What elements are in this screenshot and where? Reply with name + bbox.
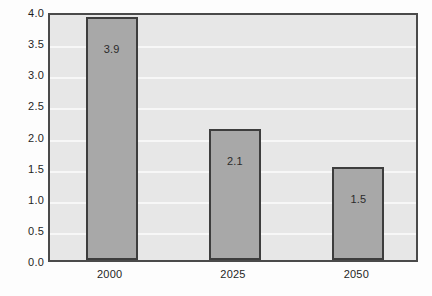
x-axis: 200020252050 bbox=[48, 268, 418, 288]
bar-value-label: 2.1 bbox=[211, 155, 259, 167]
y-tick-label: 0.5 bbox=[0, 225, 44, 237]
bar: 2.1 bbox=[209, 129, 261, 260]
y-tick-label: 3.5 bbox=[0, 38, 44, 50]
y-tick-label: 2.0 bbox=[0, 132, 44, 144]
bar: 1.5 bbox=[332, 167, 384, 260]
plot-area: 3.92.11.5 bbox=[48, 13, 418, 262]
x-tick-label: 2050 bbox=[344, 268, 369, 280]
y-tick-label: 3.0 bbox=[0, 69, 44, 81]
y-tick-label: 1.0 bbox=[0, 194, 44, 206]
y-axis: 4.03.53.02.52.01.51.00.50.0 bbox=[0, 13, 44, 262]
x-tick-label: 2025 bbox=[220, 268, 245, 280]
y-tick-label: 4.0 bbox=[0, 7, 44, 19]
bars-layer: 3.92.11.5 bbox=[50, 15, 416, 260]
bar-chart: 4.03.53.02.52.01.51.00.50.0 3.92.11.5 20… bbox=[0, 0, 432, 296]
bar-value-label: 1.5 bbox=[334, 193, 382, 205]
y-tick-label: 1.5 bbox=[0, 163, 44, 175]
bar-value-label: 3.9 bbox=[88, 43, 136, 55]
x-tick-label: 2000 bbox=[97, 268, 122, 280]
y-tick-label: 0.0 bbox=[0, 256, 44, 268]
y-tick-label: 2.5 bbox=[0, 100, 44, 112]
bar: 3.9 bbox=[86, 17, 138, 260]
